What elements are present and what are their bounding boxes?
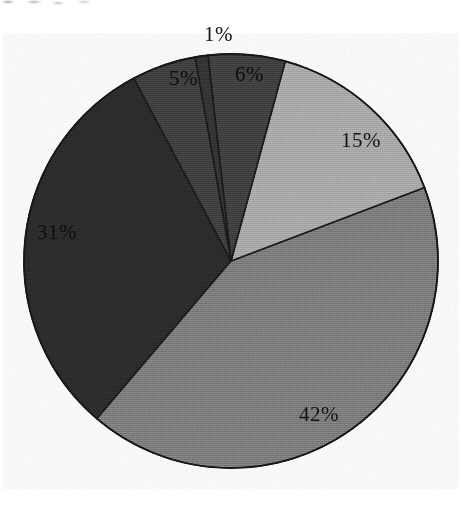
pie-label-5: 5%	[169, 68, 198, 89]
pie-label-6: 6%	[235, 64, 264, 85]
pie-label-42: 42%	[299, 404, 339, 425]
pie-label-15: 15%	[341, 130, 381, 151]
pie-label-1: 1%	[204, 24, 233, 45]
pie-label-31: 31%	[37, 222, 77, 243]
pie-chart-svg	[0, 0, 461, 507]
pie-chart: 1% 5% 6% 15% 42% 31%	[0, 0, 461, 507]
